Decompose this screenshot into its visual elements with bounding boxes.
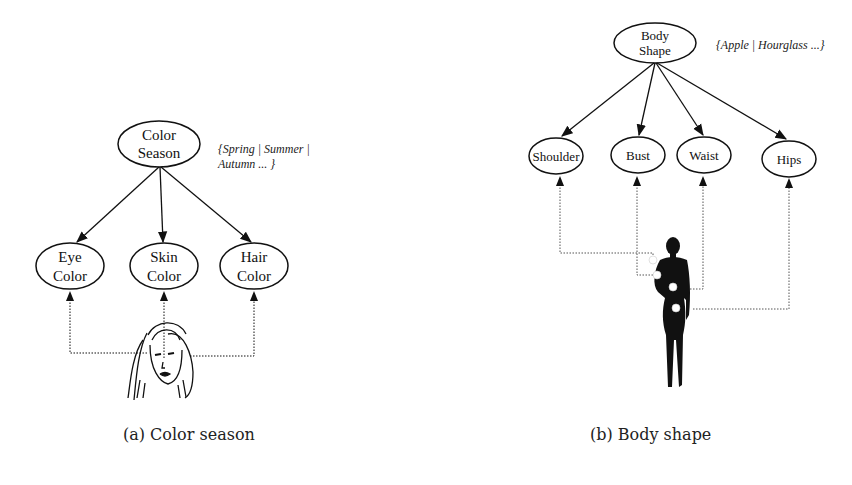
figure-a-color-season: Color Season {Spring | Summer | Autumn .… <box>36 121 310 400</box>
svg-text:Skin: Skin <box>150 249 178 265</box>
annotation-color-season-values: {Spring | Summer | Autumn ... } <box>217 142 310 171</box>
svg-text:{Spring | Summer |: {Spring | Summer | <box>218 142 310 156</box>
woman-body-silhouette-icon <box>654 237 690 387</box>
svg-text:Autumn ... }: Autumn ... } <box>217 157 275 171</box>
node-hips: Hips <box>762 141 816 177</box>
svg-text:Color: Color <box>142 127 176 143</box>
svg-text:Color: Color <box>237 268 271 284</box>
node-skin-color: Skin Color <box>130 243 198 289</box>
node-waist: Waist <box>677 137 731 173</box>
svg-text:Color: Color <box>53 268 87 284</box>
svg-text:Waist: Waist <box>689 148 719 163</box>
diagram-canvas: Color Season {Spring | Summer | Autumn .… <box>0 0 852 485</box>
svg-text:Color: Color <box>147 268 181 284</box>
svg-text:Bust: Bust <box>626 148 650 163</box>
node-hair-color: Hair Color <box>220 243 288 289</box>
figure-b-body-shape: Body Shape {Apple | Hourglass ...} Shoul… <box>529 23 825 387</box>
svg-text:Body: Body <box>641 28 670 43</box>
svg-text:Shoulder: Shoulder <box>533 149 581 164</box>
node-body-shape: Body Shape <box>614 23 696 63</box>
caption-body-shape: (b) Body shape <box>590 425 711 444</box>
annotation-body-shape-values: {Apple | Hourglass ...} <box>716 38 825 52</box>
svg-text:Hips: Hips <box>777 152 802 167</box>
caption-color-season: (a) Color season <box>123 425 255 444</box>
svg-text:Shape: Shape <box>639 43 671 58</box>
woman-face-sketch-icon <box>128 323 193 400</box>
node-eye-color: Eye Color <box>36 243 104 289</box>
node-shoulder: Shoulder <box>529 138 583 174</box>
svg-text:Season: Season <box>138 145 181 161</box>
node-bust: Bust <box>611 137 665 173</box>
svg-text:Eye: Eye <box>58 249 82 265</box>
node-color-season: Color Season <box>118 121 200 167</box>
svg-text:Hair: Hair <box>241 249 268 265</box>
